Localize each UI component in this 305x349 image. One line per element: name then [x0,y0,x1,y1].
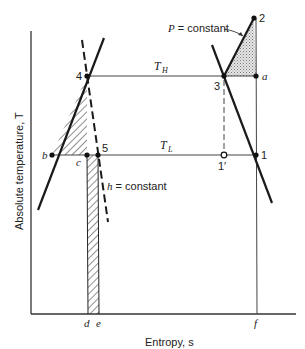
point-3 [221,73,226,78]
point-b [49,152,54,157]
hatched-strip-de [87,155,99,314]
point-c [84,152,89,157]
axis-mark-d: d [84,317,90,329]
point-1prime [221,152,227,158]
label-th: T H [154,59,169,75]
axis-mark-f: f [254,317,259,329]
label-1prime: 1′ [218,160,226,172]
pressure-constant-label: P = constant [167,22,229,34]
label-1: 1 [261,149,267,161]
label-b: b [42,149,48,161]
point-a [253,73,258,78]
x-axis-label: Entropy, s [145,336,194,348]
label-a: a [262,70,268,82]
label-5: 5 [102,142,108,154]
svg-text:T: T [154,59,162,73]
svg-text:H: H [161,66,169,75]
enthalpy-constant-label: h = constant [107,180,167,192]
label-2: 2 [259,12,265,24]
svg-text:T: T [160,138,168,152]
point-1 [253,152,258,157]
label-4: 4 [76,70,82,82]
svg-text:L: L [167,145,173,154]
y-axis-label: Absolute temperature, T [13,112,25,230]
axis-mark-e: e [96,317,101,329]
point-4 [84,73,89,78]
ts-diagram: 4 b c 5 3 2 a 1 1′ T H T L P = constant … [0,0,305,349]
hatched-area-b4c [52,76,87,155]
label-tl: T L [160,138,173,154]
arrow-head-icon [238,32,243,36]
label-c: c [76,156,81,168]
point-2 [251,15,256,20]
point-5 [95,152,100,157]
label-3: 3 [214,80,220,92]
